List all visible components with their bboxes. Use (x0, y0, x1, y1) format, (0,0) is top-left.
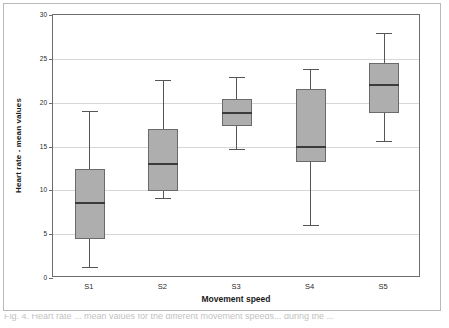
x-axis-tick-label: S2 (126, 280, 200, 294)
median-line (75, 202, 105, 204)
y-axis-tick-label: 10 (40, 187, 47, 194)
whisker-cap-upper (229, 77, 245, 78)
box-plot-group (274, 15, 348, 276)
median-line (369, 84, 399, 86)
box-plot-group (53, 15, 127, 276)
y-axis-tick-label: 0 (43, 275, 47, 282)
whisker-cap-lower (82, 267, 98, 268)
whisker-upper (236, 77, 237, 99)
median-line (148, 163, 178, 165)
median-line (296, 146, 326, 148)
whisker-lower (384, 113, 385, 141)
box-rect (148, 129, 178, 191)
x-axis-tick-label: S5 (346, 280, 420, 294)
y-axis-title-label: Heart rate - mean values (14, 98, 23, 193)
y-axis-tick-label: 30 (40, 12, 47, 19)
y-axis-tick-label: 25 (40, 56, 47, 63)
box-rect (296, 89, 326, 163)
figure-caption: Fig. 4. Heart rate ... mean values for t… (4, 314, 334, 321)
y-axis-tick-label: 5 (43, 231, 47, 238)
box-rect (369, 63, 399, 113)
box-plot-group (200, 15, 274, 276)
whisker-cap-upper (376, 33, 392, 34)
whisker-upper (89, 111, 90, 169)
whisker-lower (236, 126, 237, 149)
plot-area: 051015202530 (52, 14, 420, 277)
whisker-cap-lower (229, 149, 245, 150)
whisker-cap-lower (155, 198, 171, 199)
x-axis-tick-label: S3 (199, 280, 273, 294)
y-axis-tick-label: 20 (40, 99, 47, 106)
x-axis-title: Movement speed (52, 294, 420, 304)
whisker-lower (163, 191, 164, 198)
y-axis-tick-mark (49, 278, 53, 279)
y-axis-title: Heart rate - mean values (12, 14, 24, 277)
box-plot-group (127, 15, 201, 276)
whisker-lower (89, 239, 90, 267)
median-line (222, 112, 252, 114)
whisker-upper (163, 80, 164, 129)
whisker-cap-upper (155, 80, 171, 81)
whisker-lower (310, 162, 311, 224)
whisker-cap-lower (303, 225, 319, 226)
x-axis-tick-label: S4 (273, 280, 347, 294)
x-axis-tick-label: S1 (52, 280, 126, 294)
y-axis-tick-label: 15 (40, 143, 47, 150)
whisker-cap-lower (376, 141, 392, 142)
box-plot-group (347, 15, 421, 276)
whisker-upper (384, 33, 385, 63)
box-plot-chart: Heart rate - mean values 051015202530 S1… (0, 0, 449, 328)
whisker-cap-upper (82, 111, 98, 112)
x-axis-tick-labels: S1S2S3S4S5 (52, 280, 420, 294)
whisker-upper (310, 69, 311, 88)
whisker-cap-upper (303, 69, 319, 70)
caption-strip: Fig. 4. Heart rate ... mean values for t… (0, 314, 449, 328)
